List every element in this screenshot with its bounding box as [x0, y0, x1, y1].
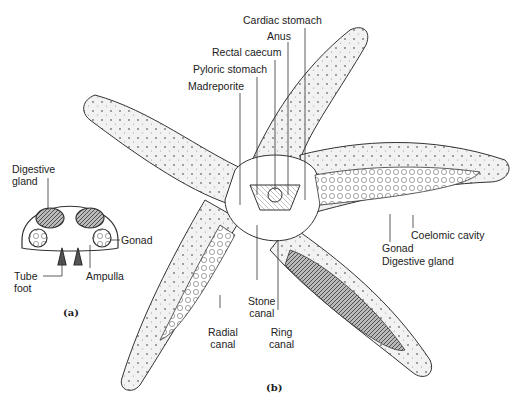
sea-star-anatomy-figure: Cardiac stomach Anus Rectal caecum Pylor…: [0, 0, 517, 400]
label-digestive-gland-b: Digestive gland: [382, 255, 454, 267]
label-ring-canal: Ring canal: [269, 326, 294, 350]
label-rectal-caecum: Rectal caecum: [212, 46, 281, 58]
label-madreporite: Madreporite: [188, 80, 244, 92]
arm-cross-section: [22, 206, 118, 265]
label-pyloric-stomach: Pyloric stomach: [193, 63, 267, 75]
label-coelomic-cavity: Coelomic cavity: [411, 229, 485, 241]
label-cardiac-stomach: Cardiac stomach: [243, 14, 322, 26]
panel-tag-a: (a): [63, 307, 79, 318]
label-anus: Anus: [267, 30, 291, 42]
panel-tag-b: (b): [266, 382, 282, 393]
label-ampulla: Ampulla: [86, 270, 124, 282]
central-disc: [225, 155, 321, 241]
illustration: [0, 0, 517, 400]
label-gonad-b: Gonad: [382, 242, 414, 254]
label-digestive-gland-a: Digestive gland: [12, 163, 55, 187]
label-tube-foot: Tube foot: [14, 270, 38, 294]
label-stone-canal: Stone canal: [248, 295, 275, 319]
label-radial-canal: Radial canal: [208, 326, 238, 350]
label-gonad-a: Gonad: [121, 234, 153, 246]
right-arm-interior: [315, 167, 480, 205]
